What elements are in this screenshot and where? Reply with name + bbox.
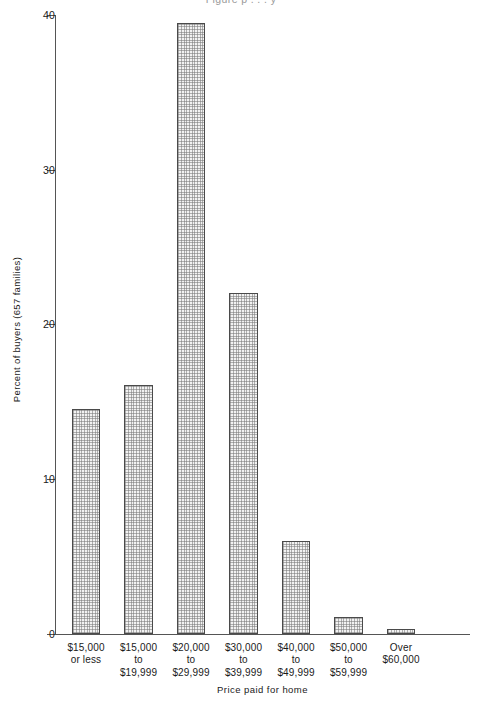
bar bbox=[124, 385, 153, 634]
bars-group bbox=[0, 0, 482, 702]
bar bbox=[229, 293, 258, 633]
bar bbox=[282, 541, 311, 634]
x-tick-label: $30,000 to $39,999 bbox=[217, 642, 270, 679]
x-axis-title: Price paid for home bbox=[55, 684, 470, 695]
bar bbox=[177, 23, 206, 634]
bar bbox=[334, 617, 363, 634]
x-tick-label: $20,000 to $29,999 bbox=[165, 642, 218, 679]
x-tick-label: $15,000 or less bbox=[60, 642, 113, 667]
x-tick-label: $50,000 to $59,999 bbox=[322, 642, 375, 679]
bar bbox=[387, 629, 416, 634]
x-tick-label: $40,000 to $49,999 bbox=[270, 642, 323, 679]
x-tick-label: Over $60,000 bbox=[375, 642, 428, 667]
bar-chart: Figure p . . . y Percent of buyers (657 … bbox=[0, 0, 482, 702]
x-tick-label: $15,000 to $19,999 bbox=[112, 642, 165, 679]
bar bbox=[72, 409, 101, 633]
